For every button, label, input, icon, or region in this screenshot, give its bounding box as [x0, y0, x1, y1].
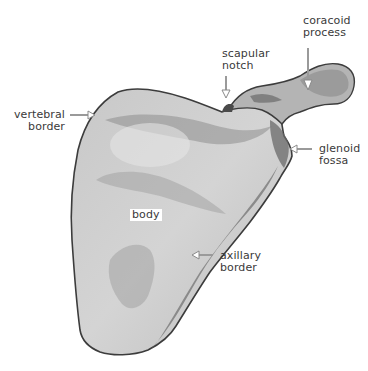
label-axillary-border: axillary border	[220, 250, 261, 274]
label-coracoid-process: coracoid process	[303, 15, 351, 39]
label-glenoid-fossa: glenoid fossa	[319, 143, 360, 167]
label-body: body	[130, 209, 162, 221]
scapular-notch-shape	[222, 104, 234, 112]
label-vertebral-border: vertebral border	[10, 109, 65, 133]
arrow-scapular-notch	[222, 76, 230, 98]
arrow-glenoid-fossa	[290, 145, 312, 153]
scapula-diagram: coracoid process scapular notch vertebra…	[0, 0, 368, 371]
upper-fossa-highlight	[110, 123, 190, 167]
label-scapular-notch: scapular notch	[222, 48, 270, 72]
scapula-illustration	[0, 0, 368, 371]
